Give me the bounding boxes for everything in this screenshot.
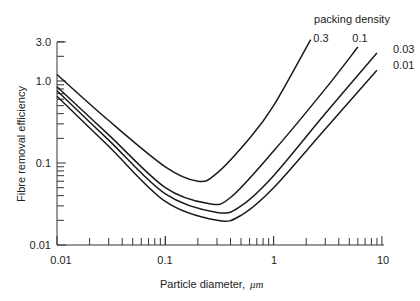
x-axis-title: Particle diameter,μm	[160, 278, 264, 290]
x-tick-label: 0.1	[157, 254, 172, 266]
y-tick-label: 1.0	[36, 75, 51, 87]
series-label-0.03: 0.03	[393, 43, 414, 55]
y-tick-label: 3.0	[36, 36, 51, 48]
efficiency-chart: 3.0 1.0 0.1 0.01 0.01 0.1 1 10 Fibre rem…	[0, 0, 420, 301]
curve-packing-0.03	[57, 53, 377, 213]
series-label-0.01: 0.01	[393, 59, 414, 71]
series-label-0.1: 0.1	[352, 32, 367, 44]
y-tick-label: 0.01	[30, 239, 51, 251]
y-axis	[57, 42, 66, 245]
x-tick-label: 1	[271, 254, 277, 266]
curve-packing-0.3	[57, 40, 311, 182]
curves	[57, 40, 377, 222]
x-tick-label: 0.01	[50, 254, 71, 266]
series-label-0.3: 0.3	[313, 32, 328, 44]
curve-packing-0.01	[57, 70, 377, 221]
x-tick-label: 10	[377, 254, 389, 266]
legend-title: packing density	[314, 13, 390, 25]
x-axis	[57, 236, 384, 245]
y-tick-label: 0.1	[36, 157, 51, 169]
y-axis-title: Fibre removal efficiency	[15, 86, 27, 202]
